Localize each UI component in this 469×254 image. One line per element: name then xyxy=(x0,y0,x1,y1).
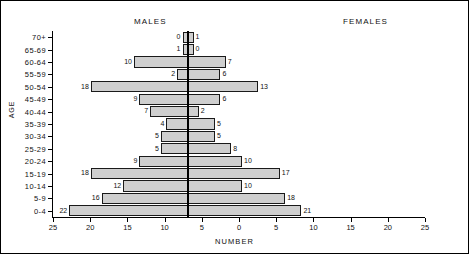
pyramid-row-35-39: 45 xyxy=(53,118,425,129)
male-bar-20-24[interactable] xyxy=(139,156,188,167)
y-tick-label-30-34: 30-34 xyxy=(25,132,46,141)
x-axis-title: NUMBER xyxy=(1,237,468,246)
pyramid-row-5-9: 1618 xyxy=(53,193,425,204)
pyramid-row-45-49: 96 xyxy=(53,94,425,105)
males-header: MALES xyxy=(134,17,167,26)
x-tick-label-9: 20 xyxy=(378,223,398,232)
x-tick-mark xyxy=(90,218,91,222)
male-bar-30-34[interactable] xyxy=(161,131,188,142)
female-bar-55-59[interactable] xyxy=(188,69,220,80)
y-tick-label-25-29: 25-29 xyxy=(25,145,46,154)
pyramid-row-25-29: 58 xyxy=(53,143,425,154)
male-value-label-30-34: 5 xyxy=(155,132,159,139)
x-tick-label-8: 15 xyxy=(341,223,361,232)
y-tick-label-0-4: 0-4 xyxy=(34,207,46,216)
male-bar-40-44[interactable] xyxy=(150,106,188,117)
male-bar-0-4[interactable] xyxy=(69,205,188,216)
male-bar-50-54[interactable] xyxy=(91,81,188,92)
y-tick-label-70plus: 70+ xyxy=(32,33,46,42)
x-tick-mark xyxy=(239,218,240,222)
male-value-label-15-19: 18 xyxy=(81,169,89,176)
male-value-label-65-69: 1 xyxy=(177,45,181,52)
female-value-label-20-24: 10 xyxy=(244,157,252,164)
female-value-label-15-19: 17 xyxy=(282,169,290,176)
y-tick-label-10-14: 10-14 xyxy=(25,182,46,191)
x-tick-mark xyxy=(202,218,203,222)
x-tick-mark xyxy=(276,218,277,222)
y-tick-label-45-49: 45-49 xyxy=(25,95,46,104)
female-value-label-30-34: 5 xyxy=(217,132,221,139)
female-bar-25-29[interactable] xyxy=(188,143,231,154)
female-bar-0-4[interactable] xyxy=(188,205,301,216)
pyramid-plot-area: 0110107261813967245555891018171210161822… xyxy=(53,31,425,217)
female-value-label-25-29: 8 xyxy=(233,145,237,152)
male-bar-5-9[interactable] xyxy=(102,193,188,204)
pyramid-row-10-14: 1210 xyxy=(53,180,425,191)
male-value-label-35-39: 4 xyxy=(161,120,165,127)
male-bar-35-39[interactable] xyxy=(166,118,188,129)
pyramid-row-70plus: 01 xyxy=(53,32,425,43)
female-value-label-40-44: 2 xyxy=(201,107,205,114)
female-bar-5-9[interactable] xyxy=(188,193,285,204)
y-tick-label-65-69: 65-69 xyxy=(25,46,46,55)
male-bar-45-49[interactable] xyxy=(139,94,188,105)
pyramid-row-65-69: 10 xyxy=(53,44,425,55)
y-tick-label-15-19: 15-19 xyxy=(25,170,46,179)
female-value-label-10-14: 10 xyxy=(244,182,252,189)
x-tick-mark xyxy=(53,218,54,222)
male-value-label-70plus: 0 xyxy=(177,33,181,40)
x-tick-label-5: 0 xyxy=(229,223,249,232)
x-tick-label-10: 25 xyxy=(415,223,435,232)
center-axis-line xyxy=(187,31,189,218)
pyramid-row-55-59: 26 xyxy=(53,69,425,80)
pyramid-row-30-34: 55 xyxy=(53,131,425,142)
y-axis-ticks: 70+65-6960-6455-5950-5445-4940-4435-3930… xyxy=(1,31,53,217)
y-tick-label-20-24: 20-24 xyxy=(25,157,46,166)
male-bar-15-19[interactable] xyxy=(91,168,188,179)
male-value-label-25-29: 5 xyxy=(155,145,159,152)
pyramid-row-40-44: 72 xyxy=(53,106,425,117)
female-value-label-5-9: 18 xyxy=(287,194,295,201)
y-tick-label-60-64: 60-64 xyxy=(25,58,46,67)
male-value-label-20-24: 9 xyxy=(134,157,138,164)
female-value-label-60-64: 7 xyxy=(228,58,232,65)
female-value-label-0-4: 21 xyxy=(303,207,311,214)
pyramid-row-50-54: 1813 xyxy=(53,81,425,92)
y-tick-label-55-59: 55-59 xyxy=(25,70,46,79)
female-value-label-50-54: 13 xyxy=(260,83,268,90)
male-value-label-5-9: 16 xyxy=(92,194,100,201)
female-bar-35-39[interactable] xyxy=(188,118,215,129)
x-tick-label-7: 10 xyxy=(303,223,323,232)
x-tick-mark xyxy=(313,218,314,222)
pyramid-row-0-4: 2221 xyxy=(53,205,425,216)
female-bar-40-44[interactable] xyxy=(188,106,199,117)
x-tick-mark xyxy=(351,218,352,222)
male-bar-10-14[interactable] xyxy=(123,180,188,191)
male-value-label-50-54: 18 xyxy=(81,83,89,90)
y-tick-label-5-9: 5-9 xyxy=(34,194,46,203)
y-tick-label-50-54: 50-54 xyxy=(25,83,46,92)
x-tick-mark xyxy=(127,218,128,222)
x-tick-label-6: 5 xyxy=(266,223,286,232)
male-bar-60-64[interactable] xyxy=(134,56,188,67)
female-bar-50-54[interactable] xyxy=(188,81,258,92)
x-tick-label-4: 5 xyxy=(192,223,212,232)
pyramid-row-20-24: 910 xyxy=(53,156,425,167)
y-tick-label-35-39: 35-39 xyxy=(25,120,46,129)
male-bar-25-29[interactable] xyxy=(161,143,188,154)
male-value-label-60-64: 10 xyxy=(124,58,132,65)
male-value-label-55-59: 2 xyxy=(171,70,175,77)
male-value-label-40-44: 7 xyxy=(144,107,148,114)
female-bar-10-14[interactable] xyxy=(188,180,242,191)
x-tick-label-2: 15 xyxy=(117,223,137,232)
female-value-label-45-49: 6 xyxy=(222,95,226,102)
x-tick-mark xyxy=(425,218,426,222)
female-bar-20-24[interactable] xyxy=(188,156,242,167)
pyramid-row-15-19: 1817 xyxy=(53,168,425,179)
females-header: FEMALES xyxy=(343,17,388,26)
female-value-label-55-59: 6 xyxy=(222,70,226,77)
female-bar-60-64[interactable] xyxy=(188,56,226,67)
female-bar-30-34[interactable] xyxy=(188,131,215,142)
female-bar-45-49[interactable] xyxy=(188,94,220,105)
female-bar-15-19[interactable] xyxy=(188,168,280,179)
